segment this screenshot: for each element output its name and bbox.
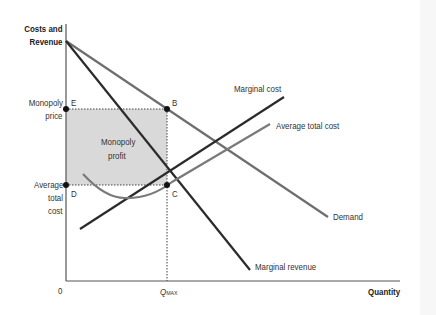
demand-label: Demand	[333, 212, 363, 223]
point-d	[63, 182, 69, 188]
atc-label-line1: Average	[34, 180, 63, 191]
marginal-cost-label: Marginal cost	[234, 84, 281, 95]
point-b	[164, 106, 170, 112]
profit-label-line2: profit	[108, 151, 126, 162]
x-axis-label: Quantity	[368, 287, 400, 298]
point-b-label: B	[172, 98, 177, 109]
point-c	[164, 182, 170, 188]
qmax-label-sub: MAX	[166, 290, 177, 296]
average-total-cost-label: Average total cost	[276, 121, 339, 132]
marginal-revenue-label: Marginal revenue	[255, 262, 316, 273]
monopoly-profit-diagram	[0, 0, 436, 315]
atc-label-line2: total	[48, 193, 63, 204]
point-c-label: C	[172, 189, 178, 200]
origin-label: 0	[58, 286, 62, 297]
y-axis-label-line2: Revenue	[30, 37, 63, 48]
y-axis-label-line1: Costs and	[25, 24, 63, 35]
point-e	[63, 106, 69, 112]
profit-label-line1: Monopoly	[101, 137, 135, 148]
point-d-label: D	[71, 189, 77, 200]
point-e-label: E	[71, 98, 76, 109]
monopoly-price-label-line2: price	[46, 111, 63, 122]
qmax-label: QMAX	[160, 287, 178, 299]
atc-label-line3: cost	[48, 206, 63, 217]
monopoly-price-label-line1: Monopoly	[29, 98, 63, 109]
